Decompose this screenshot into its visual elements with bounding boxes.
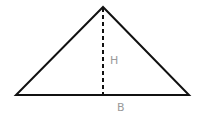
height-label: H — [110, 54, 118, 67]
triangle-diagram: H B — [0, 0, 197, 120]
base-label: B — [117, 101, 125, 114]
